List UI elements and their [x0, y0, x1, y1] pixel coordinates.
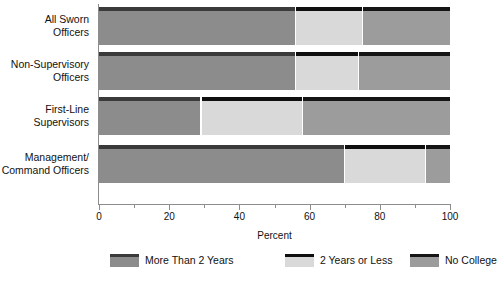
- legend-item: More Than 2 Years: [110, 252, 234, 268]
- bar-segment-body: [99, 56, 296, 90]
- bar-row: [99, 145, 450, 183]
- category-label-line: All Sworn: [0, 13, 89, 26]
- category-label-line: Command Officers: [0, 164, 89, 177]
- bar-segment: [99, 7, 296, 45]
- bar-segment-divider: [362, 7, 364, 45]
- category-label-line: Officers: [0, 71, 89, 84]
- category-label-line: Supervisors: [0, 116, 89, 129]
- bar-segment-body: [362, 11, 450, 45]
- bar-segment: [99, 145, 345, 183]
- bar-segment-divider: [425, 145, 427, 183]
- category-label: First-LineSupervisors: [0, 103, 89, 128]
- legend-item: No College: [410, 252, 497, 268]
- x-axis-minor-tick: [275, 204, 276, 208]
- legend-swatch-body: [410, 257, 439, 267]
- bar-segment-body: [296, 11, 363, 45]
- bar-segment-divider: [200, 97, 202, 135]
- bar-row: [99, 7, 450, 45]
- category-label-line: Non-Supervisory: [0, 58, 89, 71]
- legend-swatch-body: [285, 257, 314, 267]
- bar-segment-divider: [295, 52, 297, 90]
- bar-segment-body: [359, 56, 450, 90]
- chart-legend: More Than 2 Years2 Years or LessNo Colle…: [110, 252, 455, 272]
- bar-segment-divider: [295, 7, 297, 45]
- bar-segment: [359, 52, 450, 90]
- x-axis-tick: [310, 204, 311, 210]
- x-axis-tick: [380, 204, 381, 210]
- bar-segment-body: [296, 56, 359, 90]
- bar-segment: [345, 145, 426, 183]
- legend-label: 2 Years or Less: [320, 254, 392, 266]
- bar-segment-divider: [344, 145, 346, 183]
- category-label: Management/Command Officers: [0, 151, 89, 176]
- x-axis-tick-label: 60: [304, 211, 315, 222]
- bar-segment-divider: [302, 97, 304, 135]
- bar-segment-body: [99, 11, 296, 45]
- bar-segment: [99, 52, 296, 90]
- legend-label: More Than 2 Years: [145, 254, 234, 266]
- category-label-line: Management/: [0, 151, 89, 164]
- x-axis-minor-tick: [415, 204, 416, 208]
- x-axis-tick-label: 0: [96, 211, 102, 222]
- bar-row: [99, 52, 450, 90]
- category-label-line: First-Line: [0, 103, 89, 116]
- category-axis-labels: All SwornOfficersNon-SupervisoryOfficers…: [0, 0, 94, 204]
- category-label: All SwornOfficers: [0, 13, 89, 38]
- x-axis-tick: [450, 204, 451, 210]
- legend-item: 2 Years or Less: [285, 252, 392, 268]
- plot-area: 020406080100 Percent: [99, 4, 450, 204]
- legend-swatch: [110, 254, 139, 267]
- x-axis-minor-tick: [204, 204, 205, 208]
- legend-label: No College: [445, 254, 497, 266]
- legend-swatch: [285, 254, 314, 267]
- bar-segment: [296, 52, 359, 90]
- bar-segment-body: [201, 101, 303, 135]
- x-axis-tick: [169, 204, 170, 210]
- x-axis-tick: [239, 204, 240, 210]
- bar-segment: [201, 97, 303, 135]
- x-axis-tick-label: 40: [234, 211, 245, 222]
- bar-segment-body: [99, 101, 201, 135]
- x-axis-tick: [99, 204, 100, 210]
- legend-swatch-body: [110, 257, 139, 267]
- bar-segment: [303, 97, 450, 135]
- x-axis-title: Percent: [99, 230, 450, 241]
- x-axis-tick-label: 20: [164, 211, 175, 222]
- category-label: Non-SupervisoryOfficers: [0, 58, 89, 83]
- x-axis-tick-label: 100: [442, 211, 459, 222]
- bar-segment-body: [303, 101, 450, 135]
- bar-segment-divider: [358, 52, 360, 90]
- x-axis-minor-tick: [345, 204, 346, 208]
- bar-segment-body: [425, 149, 450, 183]
- bar-segment: [296, 7, 363, 45]
- bar-row: [99, 97, 450, 135]
- bar-segment: [362, 7, 450, 45]
- bar-segment-body: [99, 149, 345, 183]
- bar-segment: [99, 97, 201, 135]
- x-axis-minor-tick: [134, 204, 135, 208]
- bar-segment-body: [345, 149, 426, 183]
- legend-swatch: [410, 254, 439, 267]
- category-label-line: Officers: [0, 26, 89, 39]
- x-axis-tick-label: 80: [374, 211, 385, 222]
- bar-segment: [425, 145, 450, 183]
